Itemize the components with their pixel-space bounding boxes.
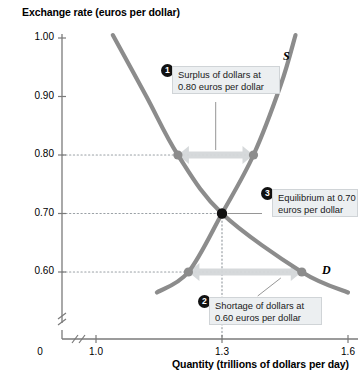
curve-label-demand: D: [322, 263, 331, 278]
marker-equilibrium: [217, 208, 227, 218]
annotation-line-1: Shortage of dollars at: [215, 300, 316, 312]
shortage-arrow: [188, 263, 301, 281]
marker-supply-at-0.60: [184, 267, 193, 276]
x-tick-label-1.6: 1.6: [333, 346, 361, 357]
y-tick-label-0.90: 0.90: [20, 90, 54, 101]
annotation-line-2: euros per dollar: [278, 204, 352, 216]
annotation-line-2: 0.80 euros per dollar: [178, 81, 274, 93]
y-tick-label-0.70: 0.70: [20, 207, 54, 218]
y-tick-label-1.00: 1.00: [20, 31, 54, 42]
curve-label-supply: S: [283, 49, 290, 64]
marker-demand-at-0.60: [297, 267, 306, 276]
exchange-rate-supply-demand-chart: Exchange rate (euros per dollar) Quantit…: [0, 0, 361, 376]
annotation-line-1: Surplus of dollars at: [178, 69, 274, 81]
x-tick-label-1.3: 1.3: [207, 346, 237, 357]
annotation-line-1: Equilibrium at 0.70: [278, 192, 352, 204]
origin-label: 0: [25, 346, 55, 357]
annotation-callout-1: Surplus of dollars at0.80 euros per doll…: [172, 66, 280, 94]
marker-demand-at-0.80: [173, 150, 182, 159]
y-tick-label-0.80: 0.80: [20, 148, 54, 159]
annotation-callout-3: Equilibrium at 0.70euros per dollar: [272, 189, 358, 217]
y-tick-label-0.60: 0.60: [20, 265, 54, 276]
annotation-callout-2: Shortage of dollars at0.60 euros per dol…: [209, 297, 322, 325]
annotation-line-2: 0.60 euros per dollar: [215, 312, 316, 324]
leader-line-shortage: [258, 278, 281, 296]
x-tick-label-1.0: 1.0: [81, 346, 111, 357]
marker-supply-at-0.80: [249, 150, 258, 159]
